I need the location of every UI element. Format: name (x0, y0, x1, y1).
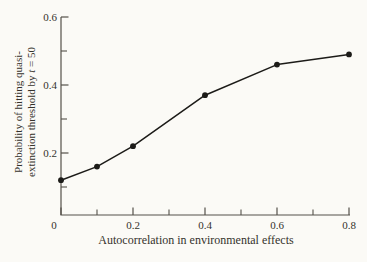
x-axis-label: Autocorrelation in environmental effects (76, 233, 316, 248)
y-axis-label: Probability of hitting quasi-extinction … (12, 12, 38, 212)
y-tick-label: 0.6 (31, 11, 57, 23)
data-line (61, 54, 349, 180)
y-axis-label-line1: Probability of hitting quasi- (12, 51, 24, 173)
chart-figure: Probability of hitting quasi-extinction … (0, 0, 367, 262)
data-point (274, 62, 280, 68)
x-tick-label: 0.2 (118, 219, 148, 231)
data-point (202, 92, 208, 98)
x-tick-label: 0.4 (190, 219, 220, 231)
data-point (130, 143, 136, 149)
axes (61, 17, 350, 215)
data-point (94, 164, 100, 170)
x-tick-label: 0.8 (334, 219, 364, 231)
data-point (346, 52, 352, 58)
y-axis-label-line2-post: = 50 (25, 47, 37, 70)
y-tick-label: 0.4 (31, 79, 57, 91)
x-tick-label: 0.6 (262, 219, 292, 231)
y-axis-label-variable: t (25, 70, 37, 73)
data-point (58, 177, 64, 183)
y-tick-label: 0.2 (31, 147, 57, 159)
x-tick-label: 0 (39, 219, 69, 231)
